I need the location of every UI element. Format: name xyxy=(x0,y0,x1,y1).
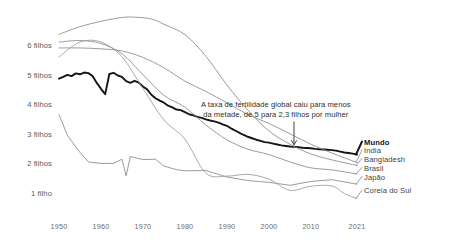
x-axis-tick-label: 1970 xyxy=(134,222,151,231)
chart-plot-area xyxy=(0,0,461,246)
y-axis-tick-label: 4 filhos xyxy=(0,100,52,109)
x-axis-tick-label: 2000 xyxy=(260,222,277,231)
x-axis-tick-label: 2021 xyxy=(349,222,366,231)
legend-leader-coreia-do-sul xyxy=(356,190,362,199)
y-axis-tick-label: 1 filho xyxy=(0,189,52,198)
x-axis-tick-label: 1950 xyxy=(51,222,68,231)
legend-leader-japão xyxy=(356,177,362,185)
x-axis-tick-label: 1960 xyxy=(93,222,110,231)
legend-label-brasil[interactable]: Brasil xyxy=(364,163,384,172)
annotation-line: A taxa de fertilidade global caiu para m… xyxy=(201,100,351,110)
annotation-arrow-icon xyxy=(291,122,296,145)
fertility-rate-chart: 6 filhos5 filhos4 filhos3 filhos2 filhos… xyxy=(0,0,461,246)
legend-label-japão[interactable]: Japão xyxy=(364,172,385,181)
legend-leader-bangladesh xyxy=(356,159,362,166)
x-axis-tick-label: 1980 xyxy=(176,222,193,231)
legend-label-coreia-do-sul[interactable]: Coreia do Sul xyxy=(364,186,411,195)
y-axis-tick-label: 5 filhos xyxy=(0,70,52,79)
y-axis-tick-label: 3 filhos xyxy=(0,129,52,138)
legend-leader-brasil xyxy=(356,168,362,175)
y-axis-tick-label: 6 filhos xyxy=(0,41,52,50)
y-axis-tick-label: 2 filhos xyxy=(0,159,52,168)
annotation-line: da metade, de 5 para 2,3 filhos por mulh… xyxy=(201,110,351,120)
x-axis-tick-label: 1990 xyxy=(218,222,235,231)
x-axis-tick-label: 2010 xyxy=(302,222,319,231)
global-fertility-annotation: A taxa de fertilidade global caiu para m… xyxy=(201,100,351,121)
legend-label-bangladesh[interactable]: Bangladesh xyxy=(364,154,405,163)
